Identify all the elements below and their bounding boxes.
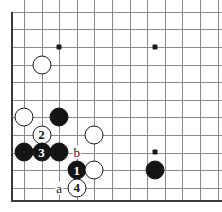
white-stone-move-4: 4 [67,178,86,197]
grid-line-horizontal [11,12,222,13]
black-stone-lower-right [145,161,164,180]
move-number-label: 1 [74,163,81,176]
white-stone-lower-right-cluster [85,161,104,180]
black-stone-upper-cluster [50,108,69,127]
black-stone-move-3: 3 [32,143,51,162]
point-label-a: a [55,181,63,194]
black-stone-left-edge [15,143,34,162]
move-number-label: 4 [74,181,81,194]
point-label-b: b [73,146,82,159]
white-stone-left-side [15,108,34,127]
go-board-diagram: 2314 ba [0,0,222,212]
star-point-upper-left [57,45,62,50]
white-stone-upper-left [32,55,51,74]
grid-line-horizontal [11,100,222,101]
grid-line-horizontal [11,29,222,30]
board-edge-bottom [11,200,222,202]
grid-line-horizontal [11,47,222,48]
black-stone-move-1: 1 [67,161,86,180]
grid-line-horizontal [11,82,222,83]
grid-line-horizontal [11,170,222,171]
board-edge-left [11,12,13,202]
move-number-label: 3 [38,145,45,158]
grid-line-horizontal [11,117,222,118]
move-number-label: 2 [38,128,45,141]
star-point-lower-right [152,150,157,155]
black-stone-center-cluster [50,143,69,162]
white-stone-right-cluster [85,125,104,144]
grid-line-horizontal [11,188,222,189]
star-point-upper-right [152,45,157,50]
white-stone-move-2: 2 [32,125,51,144]
